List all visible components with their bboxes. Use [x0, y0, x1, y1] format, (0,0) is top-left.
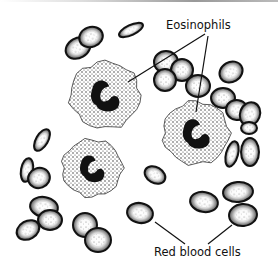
eosinophils-label: Eosinophils — [166, 18, 231, 32]
eosinophil-diagram: Eosinophils Red blood cells — [0, 0, 278, 275]
red-blood-cell — [117, 20, 145, 40]
red-blood-cells-label: Red blood cells — [154, 245, 241, 259]
red-blood-cell — [216, 57, 247, 86]
red-blood-cell — [154, 69, 176, 91]
eosinophil-cell — [68, 60, 141, 128]
red-blood-cell — [186, 75, 210, 97]
red-blood-cell — [31, 127, 53, 154]
red-blood-cell — [85, 228, 111, 252]
red-blood-cell — [241, 138, 259, 166]
red-blood-cell — [241, 122, 257, 134]
red-blood-cell — [125, 201, 154, 225]
leader-eosinophil-2 — [196, 36, 208, 112]
leader-rbc-2 — [208, 225, 232, 244]
eosinophil-cell — [62, 138, 125, 197]
red-blood-cell — [38, 210, 62, 230]
red-blood-cell — [188, 190, 219, 215]
cell-illustration — [0, 0, 278, 275]
red-blood-cell — [228, 203, 258, 227]
leader-rbc-1 — [155, 222, 185, 244]
red-blood-cell — [222, 181, 254, 204]
red-blood-cell — [141, 163, 168, 188]
